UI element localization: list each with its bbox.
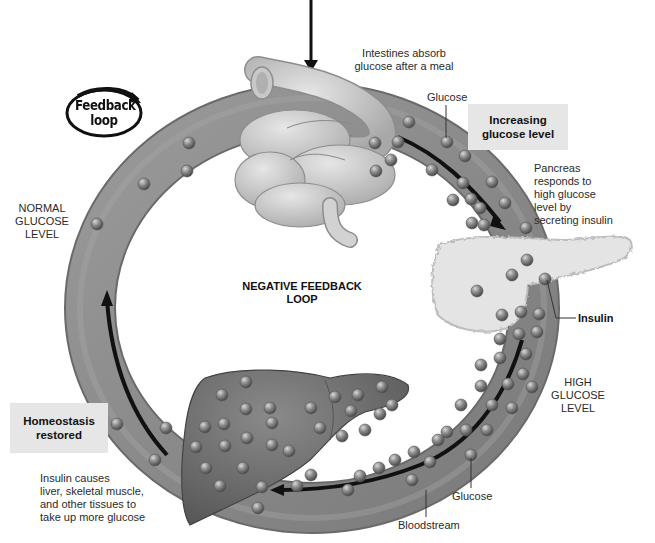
increasing-box-line-1: Increasing	[482, 113, 554, 127]
pancreas-label-line-3: high glucose	[534, 188, 613, 201]
increasing-glucose-box: Increasing glucose level	[468, 104, 568, 150]
badge-line-1: Feedback	[75, 98, 133, 113]
pancreas-label: Pancreas responds to high glucose level …	[534, 162, 613, 227]
negative-feedback-loop-title: NEGATIVE FEEDBACK LOOP	[236, 280, 368, 306]
intestines-label-line-2: glucose after a meal	[344, 60, 464, 73]
insulin-effect-line-2: liver, skeletal muscle,	[40, 485, 145, 498]
intestines-label-line-1: Intestines absorb	[344, 47, 464, 60]
feedback-loop-diagram	[0, 0, 655, 543]
feedback-loop-badge-label: Feedback loop	[75, 98, 133, 128]
insulin-effect-line-3: and other tissues to	[40, 498, 145, 511]
pancreas-label-line-2: responds to	[534, 175, 613, 188]
normal-glucose-label: NORMAL GLUCOSE LEVEL	[14, 202, 70, 241]
normal-label-line-2: GLUCOSE	[14, 215, 70, 228]
center-title-line-2: LOOP	[236, 293, 368, 306]
meal-input-arrow	[304, 0, 318, 72]
high-glucose-label: HIGH GLUCOSE LEVEL	[550, 376, 606, 415]
homeostasis-box-line-2: restored	[23, 428, 95, 442]
bloodstream-label: Bloodstream	[398, 519, 460, 532]
glucose-label-bottom: Glucose	[452, 490, 492, 503]
homeostasis-box-line-1: Homeostasis	[23, 414, 95, 428]
insulin-effect-line-1: Insulin causes	[40, 472, 145, 485]
pancreas-label-line-1: Pancreas	[534, 162, 613, 175]
insulin-label: Insulin	[578, 312, 613, 325]
glucose-label-top: Glucose	[427, 91, 467, 104]
insulin-effect-line-4: take up more glucose	[40, 511, 145, 524]
high-label-line-3: LEVEL	[550, 402, 606, 415]
normal-label-line-3: LEVEL	[14, 228, 70, 241]
high-label-line-1: HIGH	[550, 376, 606, 389]
increasing-box-line-2: glucose level	[482, 127, 554, 141]
pancreas-label-line-4: level by	[534, 201, 613, 214]
pancreas-label-line-5: secreting insulin	[534, 214, 613, 227]
insulin-effect-label: Insulin causes liver, skeletal muscle, a…	[40, 472, 145, 524]
homeostasis-restored-box: Homeostasis restored	[10, 403, 108, 453]
normal-label-line-1: NORMAL	[14, 202, 70, 215]
badge-line-2: loop	[75, 113, 133, 128]
center-title-line-1: NEGATIVE FEEDBACK	[236, 280, 368, 293]
high-label-line-2: GLUCOSE	[550, 389, 606, 402]
intestines-label: Intestines absorb glucose after a meal	[344, 47, 464, 73]
